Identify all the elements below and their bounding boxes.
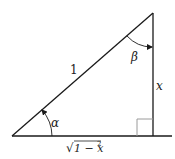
beta-label: β (130, 50, 138, 64)
right-triangle-diagram: 1 x α β √ 1 − x 2 (0, 0, 175, 159)
hypotenuse (12, 13, 153, 136)
vertical-side-label: x (156, 79, 163, 93)
alpha-label: α (51, 116, 59, 130)
hypotenuse-label: 1 (70, 63, 78, 77)
right-angle-marker (137, 119, 153, 136)
base-label: √ 1 − x 2 (66, 140, 104, 155)
radical-sign: √ (66, 141, 74, 155)
beta-angle-arc (127, 36, 152, 47)
exponent: 2 (97, 140, 101, 148)
